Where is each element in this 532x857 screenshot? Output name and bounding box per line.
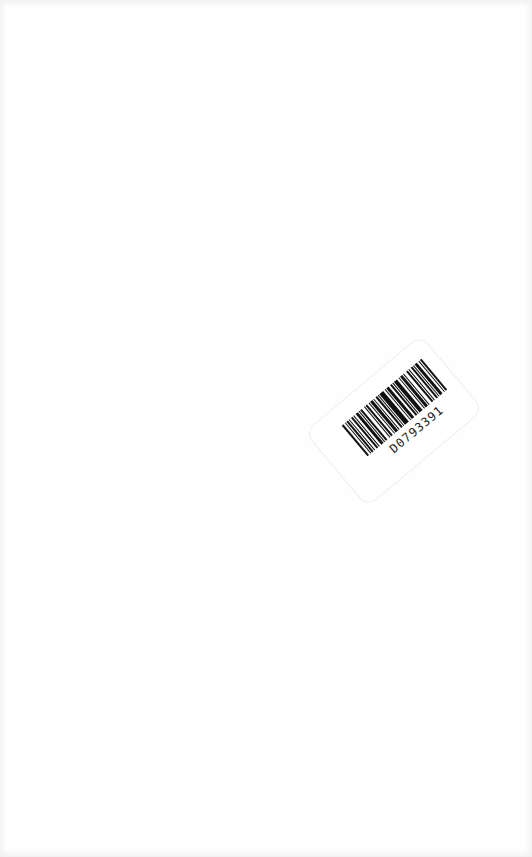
barcode-sticker-content: D0793391 bbox=[306, 336, 483, 506]
blank-page: D0793391 bbox=[0, 0, 532, 857]
barcode-sticker: D0793391 bbox=[304, 335, 483, 508]
